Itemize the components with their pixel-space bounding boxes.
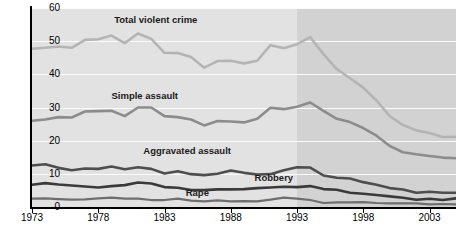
x-tick-label: 1983 [153,213,175,223]
chart-container: 0102030405060 19731978198319881993199820… [0,0,460,232]
series-line-simple-assault [32,103,456,159]
series-label-total-violent-crime: Total violent crime [114,15,197,25]
y-tick-label: 20 [34,136,60,146]
y-tick-label: 10 [34,169,60,179]
series-label-robbery: Robbery [255,173,294,183]
x-tick-label: 1998 [352,213,374,223]
series-label-rape: Rape [186,188,209,198]
y-tick-label: 60 [34,3,60,13]
x-tick-label: 1978 [87,213,109,223]
series-label-aggravated-assault: Aggravated assault [143,146,231,156]
x-tick-label: 1988 [220,213,242,223]
y-tick-label: 30 [34,103,60,113]
series-line-rape [32,198,456,205]
y-tick-label: 50 [34,36,60,46]
plot-area [32,8,456,207]
x-tick-label: 1973 [21,213,43,223]
y-tick-label: 40 [34,69,60,79]
series-label-simple-assault: Simple assault [112,91,179,101]
y-tick-label: 0 [34,202,60,212]
x-axis-line [30,207,456,209]
series-line-robbery [32,182,456,200]
x-tick-label: 1993 [286,213,308,223]
y-axis-line [30,6,32,209]
series-lines [32,8,456,207]
x-tick-label: 2003 [418,213,440,223]
